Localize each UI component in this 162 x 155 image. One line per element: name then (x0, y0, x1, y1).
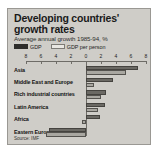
x-tick-label: 0 (85, 53, 88, 59)
bar-row: Latin America (8, 101, 151, 114)
category-label: Africa (14, 116, 29, 122)
x-tick-label: 8 (145, 53, 148, 59)
bar-gdp-per-person (82, 120, 86, 124)
bar-gdp (86, 78, 113, 82)
bar-row: Rich industrial countries (8, 89, 151, 102)
bar-gdp (49, 128, 86, 132)
legend-item-gdp: GDP (14, 44, 42, 50)
x-tick-label: 8 (25, 53, 28, 59)
legend-label-gdp: GDP (30, 44, 42, 50)
bar-gdp-per-person (86, 83, 94, 87)
bar-gdp-per-person (86, 70, 126, 74)
chart-title: Developing countries' growth rates (14, 13, 140, 34)
chart-subtitle: Average annual growth 1985-94, % (14, 35, 148, 42)
bar-gdp (86, 115, 100, 119)
plot-area: 864202468 AsiaMiddle East and EuropeRich… (8, 53, 151, 139)
x-tick-label: 4 (115, 53, 118, 59)
bar-row: Africa (8, 114, 151, 127)
bar-row: Middle East and Europe (8, 76, 151, 89)
bar-gdp-per-person (46, 132, 87, 136)
category-label: Middle East and Europe (14, 79, 73, 85)
category-label: Latin America (14, 104, 48, 110)
x-tick-label: 2 (100, 53, 103, 59)
x-tick-label: 6 (130, 53, 133, 59)
legend-item-gdp-per-person: GDP per person (51, 44, 106, 50)
chart-source: Source: IMF (14, 136, 39, 141)
x-tick-label: 6 (40, 53, 43, 59)
bar-gdp-per-person (86, 108, 98, 112)
legend-swatch-gdp (14, 44, 28, 49)
legend-swatch-gdp-per-person (51, 44, 65, 49)
chart-legend: GDP GDP per person (14, 44, 106, 50)
bar-gdp-per-person (86, 95, 101, 99)
legend-label-gdp-per-person: GDP per person (67, 44, 106, 50)
category-label: Asia (14, 67, 25, 73)
category-label: Rich industrial countries (14, 91, 75, 97)
bar-gdp (86, 90, 106, 94)
bar-gdp (86, 103, 105, 107)
x-tick-label: 4 (55, 53, 58, 59)
chart-panel: Developing countries' growth rates Avera… (7, 8, 151, 145)
bar-row: Asia (8, 64, 151, 77)
x-tick-label: 2 (70, 53, 73, 59)
chart-figure: Developing countries' growth rates Avera… (0, 0, 162, 155)
bar-gdp (86, 66, 138, 70)
